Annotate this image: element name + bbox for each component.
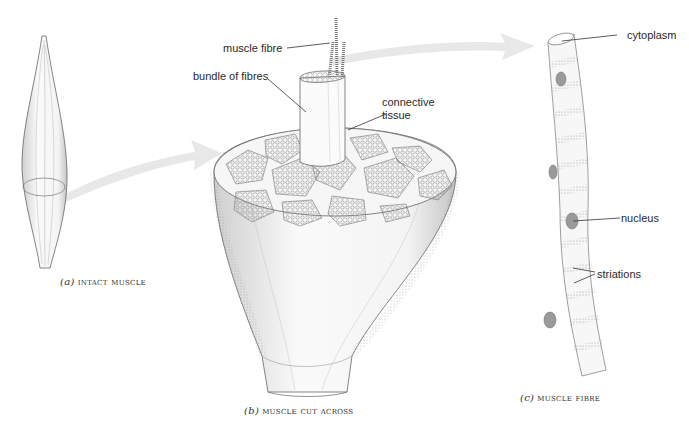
arrow-cut-to-fibre <box>330 33 535 66</box>
label-nucleus: nucleus <box>621 212 659 224</box>
caption-text: INTACT MUSCLE <box>78 276 146 287</box>
intact-muscle-illustration <box>22 36 67 268</box>
caption-letter: (b) <box>244 405 259 416</box>
caption-letter: (c) <box>520 392 534 403</box>
individual-fibres <box>329 18 344 78</box>
caption-muscle-fibre: (c) MUSCLE FIBRE <box>520 392 600 403</box>
caption-text: MUSCLE FIBRE <box>537 392 600 403</box>
caption-muscle-cut-across: (b) MUSCLE CUT ACROSS <box>244 405 353 416</box>
label-connective-tissue-line2: tissue <box>382 109 411 121</box>
label-cytoplasm: cytoplasm <box>627 29 677 41</box>
fibre-bundle <box>300 71 345 166</box>
muscle-structure-diagram: muscle fibre bundle of fibres connective… <box>0 0 689 424</box>
arrow-intact-to-cut <box>62 140 222 202</box>
caption-text: MUSCLE CUT ACROSS <box>262 405 353 416</box>
diagram-canvas <box>0 0 689 424</box>
caption-intact-muscle: (a) INTACT MUSCLE <box>60 276 146 287</box>
label-striations: striations <box>597 268 641 280</box>
label-connective-tissue-line1: connective <box>382 96 435 108</box>
label-muscle-fibre: muscle fibre <box>223 42 282 54</box>
label-bundle-of-fibres: bundle of fibres <box>193 70 268 82</box>
caption-letter: (a) <box>60 276 75 287</box>
muscle-fibre-illustration <box>544 31 606 376</box>
